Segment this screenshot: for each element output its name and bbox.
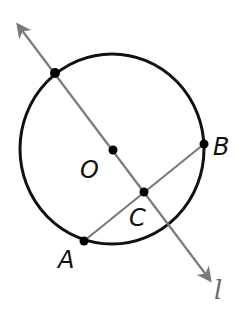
label-line-l: l (214, 275, 222, 305)
label-C: C (129, 204, 146, 232)
point-C (140, 188, 149, 197)
point-O (109, 146, 118, 155)
label-B: B (213, 133, 229, 161)
geometry-diagram: O C B A l (0, 0, 248, 321)
label-A: A (56, 246, 74, 274)
point-B (200, 140, 209, 149)
point-A (80, 237, 89, 246)
label-O: O (80, 156, 99, 184)
point-top-intersection (50, 68, 60, 78)
diagram-svg: O C B A l (0, 0, 248, 321)
